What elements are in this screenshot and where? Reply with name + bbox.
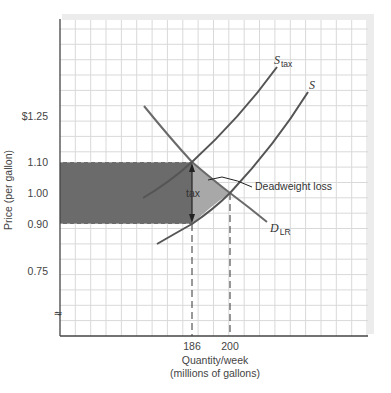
x-axis-title-line2: (millions of gallons) [170, 367, 260, 379]
dlr-label: DLR [269, 221, 291, 237]
y-tick-label: $1.25 [22, 110, 48, 122]
x-axis-title-line1: Quantity/week [182, 354, 249, 366]
x-tick-label: 186 [183, 340, 201, 352]
x-tick-labels: 186200 [183, 340, 239, 352]
x-tick-label: 200 [221, 340, 239, 352]
y-tick-labels: $1.251.101.000.900.75 [22, 110, 48, 277]
deadweight-loss-label: Deadweight loss [255, 180, 332, 192]
y-tick-label: 0.90 [28, 218, 49, 230]
y-axis-title: Price (per gallon) [2, 150, 14, 230]
frame-top [62, 14, 373, 20]
axis-break-icon: ≈ [53, 307, 62, 320]
y-tick-label: 1.10 [28, 156, 49, 168]
tax-revenue-region [60, 162, 192, 224]
tax-label: tax [186, 187, 201, 199]
y-tick-label: 1.00 [28, 187, 49, 199]
s-label: S [309, 78, 315, 92]
chart: tax Deadweight loss Stax S DLR ≈ $1.251.… [0, 0, 391, 393]
frame-right [368, 14, 374, 334]
y-tick-label: 0.75 [28, 265, 49, 277]
